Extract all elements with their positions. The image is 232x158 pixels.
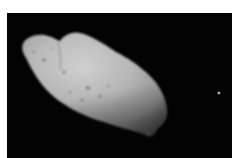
asteroid-scene (7, 13, 232, 158)
asteroid (22, 32, 167, 136)
space-photo (7, 13, 232, 158)
asteroid-moon (217, 91, 220, 94)
